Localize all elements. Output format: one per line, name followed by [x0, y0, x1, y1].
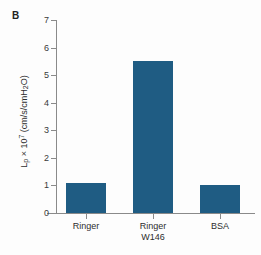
x-category-label: BSA: [180, 221, 260, 232]
y-tick-mark: [51, 185, 56, 186]
y-tick-label: 4: [33, 99, 49, 108]
y-tick-label: 0: [33, 209, 49, 218]
bar: [200, 185, 240, 213]
y-tick-label: 3: [33, 126, 49, 135]
y-axis-title-exponent: 7: [18, 135, 25, 139]
y-tick-mark: [51, 75, 56, 76]
y-axis-line: [56, 20, 57, 214]
y-tick-label: 1: [33, 181, 49, 190]
y-tick-mark: [51, 213, 56, 214]
x-axis-line: [47, 213, 255, 214]
bar: [66, 183, 106, 213]
y-axis-title-subscript: p: [22, 159, 29, 163]
y-axis-title-units-subscript: 2: [22, 85, 29, 89]
x-tick-mark: [220, 214, 221, 219]
y-tick-mark: [51, 48, 56, 49]
y-axis-title-units: (cm/s/cmH: [19, 89, 29, 135]
bar-chart-plot-area: 01234567 RingerRinger W146BSA Lp × 107 (…: [0, 0, 261, 255]
y-tick-label: 6: [33, 44, 49, 53]
x-tick-mark: [153, 214, 154, 219]
y-axis-title-units-end: O): [19, 75, 29, 85]
y-tick-mark: [51, 130, 56, 131]
y-axis-title-symbol: L: [19, 163, 29, 168]
y-axis-title: Lp × 107 (cm/s/cmH2O): [18, 37, 29, 207]
x-tick-mark: [86, 214, 87, 219]
y-axis-title-times: × 10: [19, 139, 29, 159]
y-tick-mark: [51, 20, 56, 21]
bar: [133, 61, 173, 213]
y-tick-label: 7: [33, 16, 49, 25]
figure-panel-b: B 01234567 RingerRinger W146BSA Lp × 107…: [0, 0, 261, 255]
y-tick-mark: [51, 103, 56, 104]
y-tick-label: 2: [33, 154, 49, 163]
y-tick-mark: [51, 158, 56, 159]
y-tick-label: 5: [33, 71, 49, 80]
